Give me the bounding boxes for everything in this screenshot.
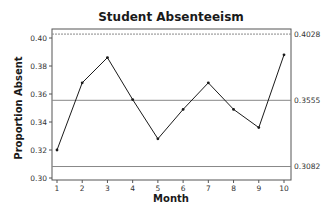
y-axis-label: Proportion Absent bbox=[13, 56, 24, 160]
y-tick-label: 0.40 bbox=[30, 34, 47, 43]
x-tick-label: 3 bbox=[105, 184, 110, 193]
data-point bbox=[106, 56, 109, 59]
series-line bbox=[57, 55, 284, 150]
data-point bbox=[56, 149, 59, 152]
x-tick-label: 9 bbox=[256, 184, 261, 193]
x-axis: 12345678910 bbox=[55, 180, 289, 193]
data-point bbox=[283, 53, 286, 56]
reference-label-center: 0.3555 bbox=[294, 96, 320, 105]
data-point bbox=[156, 137, 159, 140]
control-chart: Student Absenteeism 0.40280.35550.3082 0… bbox=[0, 0, 332, 215]
y-tick-label: 0.38 bbox=[30, 62, 47, 71]
y-tick-label: 0.32 bbox=[30, 146, 47, 155]
x-tick-label: 7 bbox=[206, 184, 211, 193]
y-axis: 0.300.320.340.360.380.40 bbox=[30, 34, 52, 183]
reference-label-ucl: 0.4028 bbox=[294, 30, 320, 39]
x-tick-label: 2 bbox=[80, 184, 85, 193]
chart-title: Student Absenteeism bbox=[98, 10, 244, 24]
x-axis-label: Month bbox=[153, 193, 189, 204]
y-tick-label: 0.30 bbox=[30, 174, 47, 183]
data-point bbox=[232, 108, 235, 111]
x-tick-label: 1 bbox=[55, 184, 60, 193]
y-tick-label: 0.36 bbox=[30, 90, 47, 99]
y-tick-label: 0.34 bbox=[30, 118, 47, 127]
reference-lines: 0.40280.35550.3082 bbox=[52, 30, 320, 171]
data-point bbox=[131, 98, 134, 101]
x-tick-label: 4 bbox=[130, 184, 135, 193]
plot-frame bbox=[52, 29, 291, 180]
data-series bbox=[56, 53, 286, 151]
data-point bbox=[257, 126, 260, 129]
data-point bbox=[81, 81, 84, 84]
x-tick-label: 10 bbox=[279, 184, 289, 193]
x-tick-label: 8 bbox=[231, 184, 236, 193]
data-point bbox=[182, 108, 185, 111]
data-point bbox=[207, 81, 210, 84]
reference-label-lcl: 0.3082 bbox=[294, 162, 320, 171]
x-tick-label: 6 bbox=[181, 184, 186, 193]
x-tick-label: 5 bbox=[155, 184, 160, 193]
